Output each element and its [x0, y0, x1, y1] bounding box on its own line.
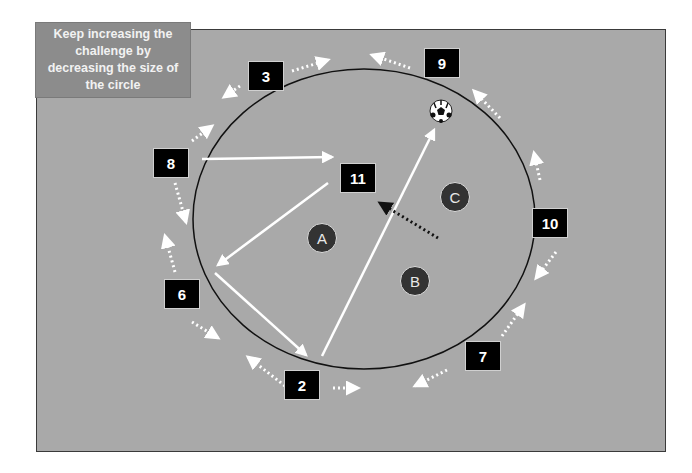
playing-circle — [193, 69, 535, 369]
move-3-right — [292, 60, 328, 71]
note-line-4: the circle — [36, 77, 190, 94]
note-line-2: challenge by — [36, 43, 190, 60]
move-10-down — [536, 252, 556, 278]
defender-a: A — [307, 223, 337, 253]
soccer-ball-icon — [430, 100, 452, 123]
defender-c: C — [440, 182, 470, 212]
pass-11-to-6 — [218, 183, 328, 265]
move-6-up — [165, 236, 175, 272]
move-7-up — [502, 305, 524, 336]
coaching-note: Keep increasing the challenge by decreas… — [35, 22, 191, 98]
move-7-left — [415, 370, 447, 386]
attacker-2: 2 — [284, 370, 320, 400]
move-3-left — [224, 86, 240, 97]
move-2-up — [248, 357, 285, 386]
pass-6-to-2 — [215, 273, 306, 355]
rotation-arrows — [165, 55, 556, 388]
attacker-3: 3 — [248, 61, 284, 91]
move-9-left — [372, 55, 410, 68]
defender-b: B — [400, 266, 430, 296]
attacker-9: 9 — [424, 48, 460, 78]
attacker-8: 8 — [153, 148, 189, 178]
attacker-11: 11 — [340, 163, 376, 193]
move-10-up — [534, 153, 540, 180]
note-line-3: decreasing the size of — [36, 60, 190, 77]
note-line-1: Keep increasing the — [36, 26, 190, 43]
move-8-down — [175, 183, 186, 222]
move-6-down — [192, 322, 218, 338]
attacker-7: 7 — [465, 341, 501, 371]
attacker-10: 10 — [532, 208, 568, 238]
pass-8-to-11 — [202, 157, 332, 159]
move-8-up — [192, 126, 212, 141]
pass-2-to-ball — [322, 130, 434, 356]
attacker-6: 6 — [164, 279, 200, 309]
